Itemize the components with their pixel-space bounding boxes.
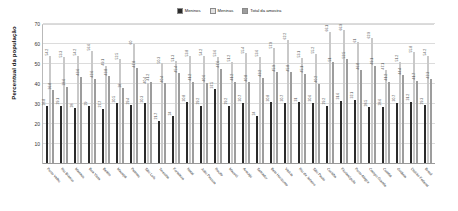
bar-value-label: 53.6 — [256, 50, 260, 58]
legend-swatch-meninos — [177, 8, 183, 14]
bar-total: 47.8 — [136, 68, 138, 164]
x-axis-tick: Belo Horizonte — [266, 166, 280, 210]
x-axis-tick: Porto Velho — [42, 166, 56, 210]
bar-total: 49.1 — [374, 66, 376, 164]
bar-total: 45.4 — [178, 73, 180, 164]
bar-value-label: 29.2 — [197, 98, 201, 106]
bar-total: 41.2 — [388, 82, 390, 164]
bar-value-label: 40.8 — [245, 75, 249, 83]
legend-label-meninas: Meninas — [218, 8, 234, 14]
bar-group: 29.266.151 — [323, 24, 337, 164]
bar-value-label: 27.7 — [99, 101, 103, 109]
bar-total: 40.8 — [248, 82, 250, 164]
bar-total: 38.6 — [66, 87, 68, 164]
bar-group: 3153.145.1 — [295, 24, 309, 164]
bar-value-label: 29.3 — [421, 98, 425, 106]
bar-total: 41.7 — [416, 81, 418, 164]
x-axis-tick: Teresina — [154, 166, 168, 210]
bar-groups: 28.854.236.829.153.338.62854.243.62956.6… — [43, 24, 435, 164]
legend-swatch-meninas — [210, 8, 216, 14]
bar-total: 52.5 — [346, 59, 348, 164]
bar-value-label: 54.2 — [46, 49, 50, 57]
x-axis-tick: Curitiba — [322, 166, 336, 210]
bar-value-label: 28.6 — [379, 99, 383, 107]
bar-value-label: 54.2 — [200, 49, 204, 57]
bar-value-label: 41.2 — [385, 74, 389, 82]
bar-group: 28.647.141.2 — [379, 24, 393, 164]
x-axis-tick: Goiânia — [392, 166, 406, 210]
bar-value-label: 52.5 — [116, 52, 120, 60]
bar-value-label: 54.2 — [74, 49, 78, 57]
bar-total: 41.2 — [150, 82, 152, 164]
bar-value-label: 47.8 — [133, 61, 137, 69]
x-axis-tick: Boa Vista — [84, 166, 98, 210]
x-axis-tick: Distrito Federal — [406, 166, 420, 210]
x-axis-tick: Florianópolis — [336, 166, 350, 210]
bar-value-label: 55.8 — [410, 46, 414, 54]
bar-group: 37.553.647.6 — [211, 24, 225, 164]
bar-value-label: 28.5 — [365, 99, 369, 107]
bar-value-label: 30.7 — [281, 95, 285, 103]
y-axis-tick: 60 — [34, 41, 40, 47]
bar-value-label: 41.7 — [413, 73, 417, 81]
bar-value-label: 66.1 — [326, 25, 330, 33]
bar-value-label: 52.5 — [343, 51, 347, 59]
bar-value-label: 29.4 — [127, 97, 131, 105]
bar-value-label: 51.3 — [172, 55, 176, 63]
legend-label-total: Total da amostra — [250, 8, 281, 14]
bar-value-label: 54.2 — [424, 49, 428, 57]
bar-total: 46.8 — [360, 70, 362, 164]
bar-value-label: 40.6 — [203, 75, 207, 83]
bar-value-label: 30.5 — [113, 95, 117, 103]
bar-group: 30.857.945.9 — [267, 24, 281, 164]
bar-value-label: 42.3 — [427, 72, 431, 80]
plot-area: 10203040506070 28.854.236.829.153.338.62… — [42, 24, 434, 164]
y-axis-title: Percentual da população — [11, 3, 17, 123]
bar-total: 45.8 — [290, 72, 292, 164]
x-axis-tick: Porto Alegre — [350, 166, 364, 210]
bar-total: 41.2 — [192, 82, 194, 164]
y-axis-tick: 70 — [34, 21, 40, 27]
x-axis-tick: Salvador — [252, 166, 266, 210]
x-axis-labels: Porto VelhoRio BrancoManausBoa VistaBelé… — [42, 166, 434, 210]
bar-value-label: 60 — [130, 40, 134, 45]
bar-value-label: 38.6 — [63, 79, 67, 87]
x-axis-tick: Brasil — [420, 166, 434, 210]
bar-total: 47.6 — [220, 69, 222, 164]
bar-value-label: 29 — [85, 101, 89, 106]
x-axis-tick: Manaus — [70, 166, 84, 210]
bar-value-label: 55.2 — [312, 47, 316, 55]
bar-value-label: 41.2 — [189, 74, 193, 82]
legend-item-meninas: Meninas — [210, 8, 234, 14]
bar-value-label: 46.8 — [357, 63, 361, 71]
x-axis-tick: São Luís — [140, 166, 154, 210]
bar-value-label: 43.8 — [105, 69, 109, 77]
x-axis-tick: Macapá — [112, 166, 126, 210]
bar-group: 30.751.244.4 — [393, 24, 407, 164]
bar-value-label: 41.2 — [231, 74, 235, 82]
bar-value-label: 66.9 — [340, 23, 344, 31]
legend-label-meninos: Meninos — [185, 8, 201, 14]
legend-item-total: Total da amostra — [242, 8, 281, 14]
bar-value-label: 53.3 — [60, 51, 64, 59]
bar-value-label: 61 — [354, 38, 358, 43]
bar-group: 30.853.841.2 — [183, 24, 197, 164]
x-axis-tick: Rio de Janeiro — [294, 166, 308, 210]
bar-value-label: 31.6 — [337, 93, 341, 101]
x-axis-tick: Cuiabá — [378, 166, 392, 210]
bar-value-label: 53.8 — [186, 50, 190, 58]
x-axis-tick: Palmas — [126, 166, 140, 210]
y-axis-tick: 40 — [34, 81, 40, 87]
bar-total: 51 — [332, 62, 334, 164]
bar-value-label: 41.2 — [147, 74, 151, 82]
bar-group: 31.255.841.7 — [407, 24, 421, 164]
bar-group: 31.666.952.5 — [337, 24, 351, 164]
bar-value-label: 29.2 — [225, 98, 229, 106]
bar-group: 2956.642.6 — [85, 24, 99, 164]
bar-value-label: 38 — [119, 83, 123, 88]
bar-group: 29.254.240.6 — [197, 24, 211, 164]
bar-group: 29.251.241.2 — [225, 24, 239, 164]
x-axis-tick: Rio Branco — [56, 166, 70, 210]
bar-value-label: 45.9 — [273, 64, 277, 72]
bar-value-label: 29.1 — [57, 98, 61, 106]
